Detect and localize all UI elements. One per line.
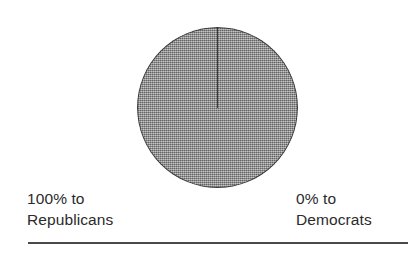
legend-label-republicans: 100% to Republicans (27, 188, 113, 230)
pie-chart-figure: 100% to Republicans 0% to Democrats (0, 0, 416, 261)
democrats-party-text: Democrats (296, 209, 372, 230)
republicans-party-text: Republicans (27, 209, 113, 230)
pie-chart (137, 27, 298, 188)
republicans-percent-text: 100% to (27, 188, 113, 209)
footer-divider (28, 242, 408, 244)
pie-slice-boundary-line-icon (217, 27, 218, 108)
legend-label-democrats: 0% to Democrats (296, 188, 372, 230)
democrats-percent-text: 0% to (296, 188, 372, 209)
